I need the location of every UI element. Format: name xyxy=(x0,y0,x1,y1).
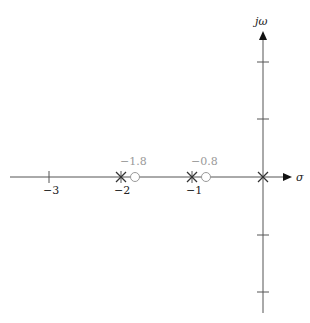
jw-axis-label: jω xyxy=(252,15,267,28)
sigma-axis-label: σ xyxy=(296,171,304,184)
zero-label-minus-1-8: −1.8 xyxy=(120,155,147,168)
zero-marker-icon xyxy=(131,173,140,182)
sigma-axis-arrow-icon xyxy=(283,173,292,181)
jw-axis-arrow-icon xyxy=(259,31,267,40)
zero-label-minus-0-8: −0.8 xyxy=(191,155,218,168)
pole-zero-plot: σ jω −3 −2 −1 −1.8 −0.8 xyxy=(0,0,310,323)
tick-label-minus-2: −2 xyxy=(114,184,130,197)
tick-label-minus-3: −3 xyxy=(43,184,59,197)
tick-label-minus-1: −1 xyxy=(186,184,202,197)
zero-marker-icon xyxy=(202,173,211,182)
